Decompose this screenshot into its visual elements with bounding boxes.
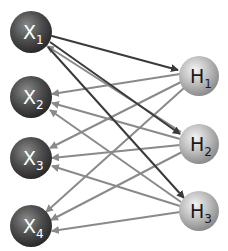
node-h3: H3 (179, 191, 219, 231)
node-h2: H2 (179, 124, 219, 164)
node-x2: X2 (10, 76, 52, 118)
hidden-nodes: H1 H2 H3 (179, 56, 219, 231)
network-diagram: X1 X2 X3 X4 H1 H2 H3 (0, 0, 228, 251)
node-x4: X4 (10, 205, 52, 247)
node-x1: X1 (10, 11, 52, 53)
edge-h3-x4 (52, 212, 180, 231)
input-nodes: X1 X2 X3 X4 (10, 11, 52, 247)
node-h1: H1 (179, 56, 219, 96)
edge-x1-h1 (52, 36, 178, 70)
feedback-edges (46, 46, 184, 231)
node-x3: X3 (10, 137, 52, 179)
